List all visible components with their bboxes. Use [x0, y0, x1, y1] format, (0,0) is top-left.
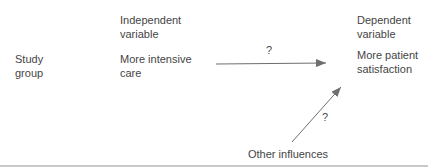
independent-variable-heading: Independent variable: [120, 14, 181, 41]
independent-variable-value: More intensive care: [120, 53, 192, 80]
other-influences-text: Other influences: [248, 148, 328, 162]
dependent-value-line1: More patient: [357, 49, 418, 63]
independent-value-line2: care: [120, 67, 192, 81]
dependent-variable-line2: variable: [357, 28, 411, 42]
dependent-value-line2: satisfaction: [357, 63, 418, 77]
dependent-variable-line1: Dependent: [357, 14, 411, 28]
dependent-variable-heading: Dependent variable: [357, 14, 411, 41]
other-influences-question-mark: ?: [322, 111, 328, 125]
other-influences-label: Other influences: [248, 148, 328, 162]
study-design-diagram: Study group Independent variable More in…: [0, 0, 428, 168]
causal-arrow: [216, 63, 326, 64]
other-influences-arrow: [292, 87, 341, 142]
independent-value-line1: More intensive: [120, 53, 192, 67]
study-group-line2: group: [15, 67, 43, 81]
independent-variable-line1: Independent: [120, 14, 181, 28]
study-group-line1: Study: [15, 53, 43, 67]
dependent-variable-value: More patient satisfaction: [357, 49, 418, 76]
independent-variable-line2: variable: [120, 28, 181, 42]
causal-arrow-question-mark: ?: [266, 44, 272, 58]
study-group-label: Study group: [15, 53, 43, 80]
